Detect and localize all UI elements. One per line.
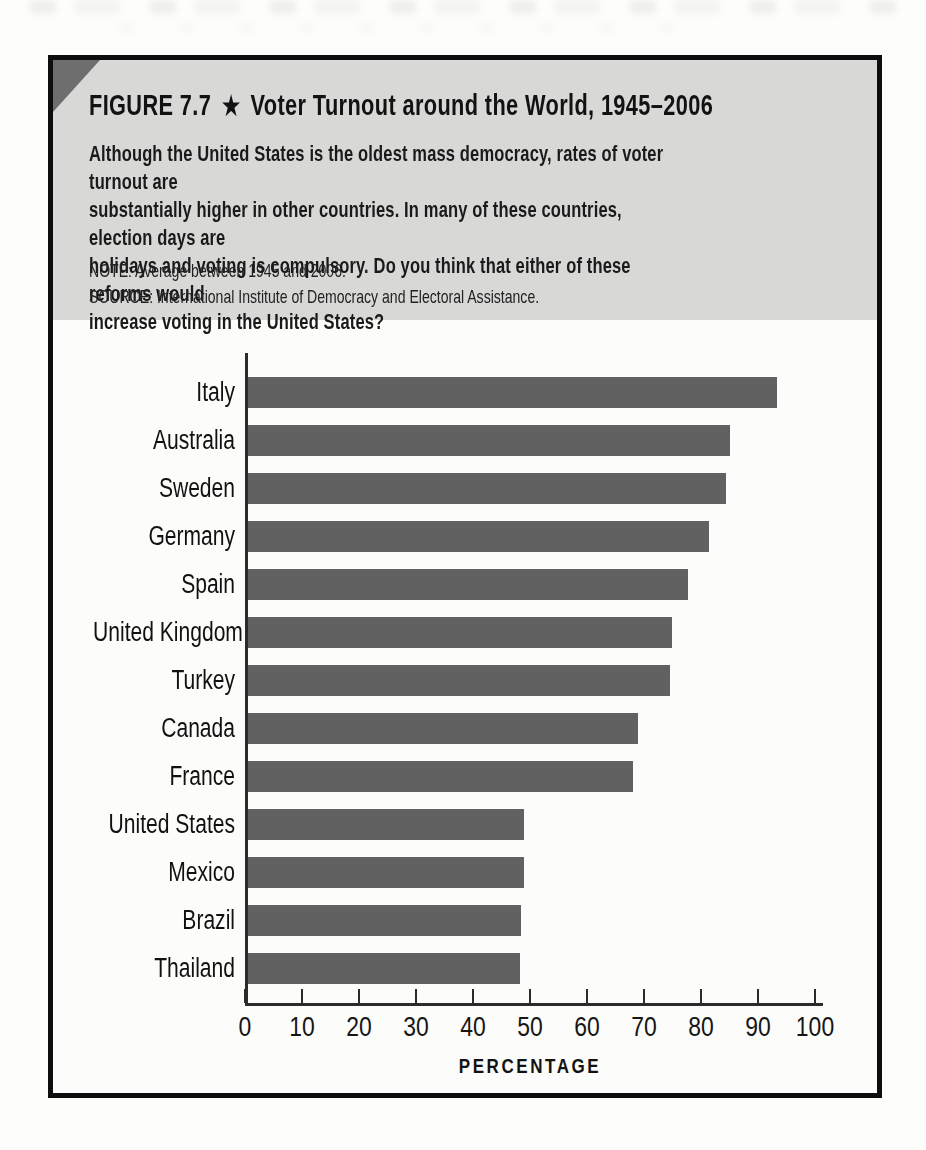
x-tick: [358, 989, 360, 1003]
category-label: Sweden: [93, 473, 235, 504]
x-tick-label: 70: [631, 1012, 657, 1043]
bar-row: Germany: [53, 521, 877, 569]
category-label: Germany: [93, 521, 235, 552]
bar-row: Canada: [53, 713, 877, 761]
x-tick-label: 30: [403, 1012, 429, 1043]
figure-title: FIGURE 7.7★Voter Turnout around the Worl…: [89, 88, 713, 123]
category-label: Turkey: [93, 665, 235, 696]
x-tick: [529, 989, 531, 1003]
x-tick: [814, 989, 816, 1003]
scan-artifact-top-2: [120, 24, 720, 32]
category-label: Canada: [93, 713, 235, 744]
figure-box: FIGURE 7.7★Voter Turnout around the Worl…: [48, 55, 882, 1098]
bar-row: United States: [53, 809, 877, 857]
bar-row: Italy: [53, 377, 877, 425]
bar-sweden: [245, 473, 726, 504]
category-label: Spain: [93, 569, 235, 600]
bar-australia: [245, 425, 730, 456]
category-label: Italy: [93, 377, 235, 408]
x-axis-label: PERCENTAGE: [459, 1055, 601, 1078]
x-tick-label: 80: [688, 1012, 714, 1043]
x-tick-label: 40: [460, 1012, 486, 1043]
category-label: Thailand: [93, 953, 235, 984]
bar-united-states: [245, 809, 524, 840]
bar-france: [245, 761, 633, 792]
star-icon: ★: [222, 89, 240, 123]
bar-thailand: [245, 953, 520, 984]
bar-turkey: [245, 665, 670, 696]
bar-united-kingdom: [245, 617, 672, 648]
x-tick: [301, 989, 303, 1003]
x-tick-label: 0: [239, 1012, 252, 1043]
category-label: United Kingdom: [93, 617, 235, 648]
figure-source: SOURCE: International Institute of Democ…: [89, 284, 539, 310]
figure-title-text: Voter Turnout around the World, 1945–200…: [251, 89, 714, 121]
bar-canada: [245, 713, 638, 744]
bar-row: Mexico: [53, 857, 877, 905]
bar-brazil: [245, 905, 521, 936]
figure-note: NOTE: Average between 1945 and 2006.: [89, 258, 346, 284]
bar-chart: ItalyAustraliaSwedenGermanySpainUnited K…: [53, 353, 877, 1093]
bar-mexico: [245, 857, 524, 888]
x-tick: [472, 989, 474, 1003]
bar-row: Sweden: [53, 473, 877, 521]
x-axis-line: [245, 1003, 823, 1006]
category-label: Mexico: [93, 857, 235, 888]
bar-row: Spain: [53, 569, 877, 617]
bar-row: Thailand: [53, 953, 877, 1001]
category-label: Australia: [93, 425, 235, 456]
category-label: France: [93, 761, 235, 792]
figure-header: FIGURE 7.7★Voter Turnout around the Worl…: [53, 60, 877, 320]
x-tick: [586, 989, 588, 1003]
category-label: United States: [93, 809, 235, 840]
x-tick: [700, 989, 702, 1003]
x-tick: [244, 989, 246, 1003]
bar-row: Brazil: [53, 905, 877, 953]
bar-italy: [245, 377, 777, 408]
figure-number: FIGURE 7.7: [89, 89, 211, 121]
bar-row: Turkey: [53, 665, 877, 713]
y-axis-line: [245, 353, 248, 1006]
x-tick: [643, 989, 645, 1003]
x-tick-label: 10: [289, 1012, 315, 1043]
x-tick: [415, 989, 417, 1003]
bar-germany: [245, 521, 709, 552]
bar-row: France: [53, 761, 877, 809]
x-tick-label: 20: [346, 1012, 372, 1043]
bar-spain: [245, 569, 688, 600]
x-tick-label: 60: [574, 1012, 600, 1043]
x-tick: [757, 989, 759, 1003]
scan-artifact-top: [30, 0, 906, 14]
x-tick-label: 50: [517, 1012, 543, 1043]
bar-row: Australia: [53, 425, 877, 473]
x-tick-label: 90: [745, 1012, 771, 1043]
bar-row: United Kingdom: [53, 617, 877, 665]
x-tick-label: 100: [796, 1012, 834, 1043]
category-label: Brazil: [93, 905, 235, 936]
